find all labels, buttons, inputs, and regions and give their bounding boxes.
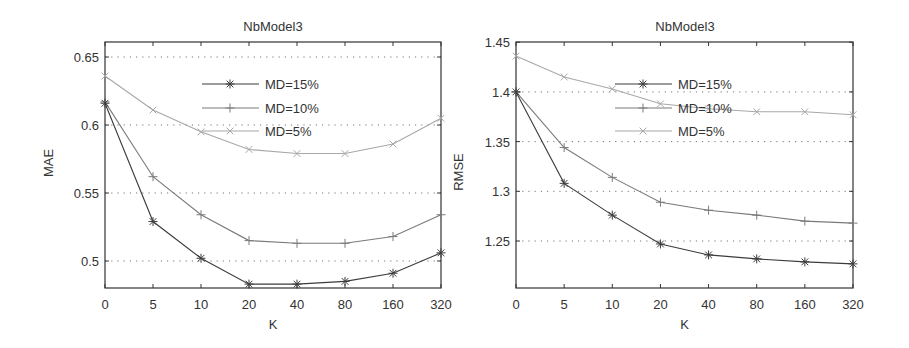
- legend-item: MD=15%: [202, 77, 319, 92]
- x-tick-label: 80: [749, 297, 763, 312]
- data-point-marker: [389, 269, 398, 278]
- y-tick-label: 1.35: [485, 135, 510, 150]
- data-point-marker: [437, 210, 446, 219]
- data-point-marker: [752, 211, 761, 220]
- data-point-marker: [849, 259, 858, 268]
- data-point-marker: [608, 211, 617, 220]
- data-point-marker: [609, 86, 616, 93]
- data-point-marker: [150, 107, 157, 114]
- y-tick-label: 1.4: [492, 85, 510, 100]
- x-tick-label: 320: [430, 297, 452, 312]
- data-point-marker: [293, 280, 302, 289]
- x-tick-label: 160: [794, 297, 816, 312]
- legend-item: MD=10%: [202, 101, 319, 116]
- legend: MD=15%MD=10%MD=5%: [202, 77, 319, 139]
- legend-label: MD=15%: [265, 77, 319, 92]
- data-point-marker: [560, 179, 569, 188]
- y-tick-label: 0.6: [81, 118, 99, 133]
- mae-chart: NbModel30.50.550.60.650510204080160320KM…: [41, 19, 452, 332]
- legend-item: MD=5%: [202, 124, 312, 139]
- data-point-marker: [293, 239, 302, 248]
- legend-item: MD=10%: [615, 101, 732, 116]
- x-tick-label: 160: [382, 297, 404, 312]
- chart-title: NbModel3: [655, 19, 714, 34]
- y-tick-label: 0.5: [81, 254, 99, 269]
- y-tick-label: 0.65: [74, 50, 99, 65]
- data-point-marker: [752, 254, 761, 263]
- legend-marker-icon: [639, 80, 648, 89]
- x-tick-label: 10: [194, 297, 208, 312]
- y-tick-label: 1.45: [485, 35, 510, 50]
- x-tick-label: 5: [561, 297, 568, 312]
- data-point-marker: [197, 254, 206, 263]
- legend-item: MD=15%: [615, 77, 732, 92]
- data-point-marker: [656, 198, 665, 207]
- data-point-marker: [800, 217, 809, 226]
- legend-label: MD=5%: [678, 124, 725, 139]
- x-tick-label: 10: [605, 297, 619, 312]
- y-tick-label: 1.3: [492, 184, 510, 199]
- rmse-chart: NbModel31.251.31.351.41.4505102040801603…: [451, 19, 864, 332]
- data-point-marker: [341, 277, 350, 286]
- x-tick-label: 0: [101, 297, 108, 312]
- x-axis-label: K: [269, 317, 278, 332]
- data-point-marker: [341, 239, 350, 248]
- data-point-marker: [149, 217, 158, 226]
- figure: NbModel30.50.550.60.650510204080160320KM…: [0, 0, 909, 348]
- y-tick-label: 0.55: [74, 186, 99, 201]
- legend-label: MD=10%: [678, 101, 732, 116]
- data-point-marker: [704, 250, 713, 259]
- y-tick-label: 1.25: [485, 234, 510, 249]
- data-point-marker: [704, 206, 713, 215]
- data-point-marker: [245, 236, 254, 245]
- legend-marker-icon: [226, 104, 235, 113]
- data-point-marker: [656, 239, 665, 248]
- x-tick-label: 320: [842, 297, 864, 312]
- data-point-marker: [561, 74, 568, 81]
- legend-label: MD=5%: [265, 124, 312, 139]
- data-point-marker: [849, 219, 858, 228]
- legend-item: MD=5%: [615, 124, 725, 139]
- data-point-marker: [101, 99, 110, 108]
- x-tick-label: 20: [653, 297, 667, 312]
- x-tick-label: 40: [290, 297, 304, 312]
- data-point-marker: [608, 173, 617, 182]
- data-point-marker: [198, 128, 205, 135]
- data-point-marker: [800, 257, 809, 266]
- x-tick-label: 0: [512, 297, 519, 312]
- x-axis-label: K: [680, 317, 689, 332]
- x-tick-label: 20: [242, 297, 256, 312]
- legend-label: MD=10%: [265, 101, 319, 116]
- x-tick-label: 40: [701, 297, 715, 312]
- data-point-marker: [512, 87, 521, 96]
- data-point-marker: [245, 280, 254, 289]
- chart-title: NbModel3: [243, 19, 302, 34]
- series-md10: [101, 97, 446, 247]
- legend-marker-icon: [226, 80, 235, 89]
- legend-marker-icon: [639, 104, 648, 113]
- y-axis-label: MAE: [41, 149, 56, 178]
- legend: MD=15%MD=10%MD=5%: [615, 77, 732, 139]
- data-point-marker: [437, 248, 446, 257]
- x-tick-label: 5: [149, 297, 156, 312]
- data-point-marker: [389, 232, 398, 241]
- x-tick-label: 80: [338, 297, 352, 312]
- legend-label: MD=15%: [678, 77, 732, 92]
- y-axis-label: RMSE: [451, 153, 466, 191]
